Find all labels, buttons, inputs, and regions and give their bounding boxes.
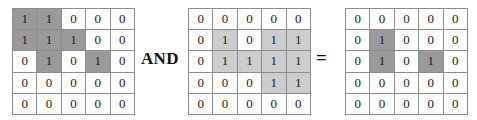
matrix-cell: 0 (443, 72, 467, 93)
equals-operator-label: = (316, 48, 327, 67)
matrix-cell: 0 (419, 72, 443, 93)
matrix-cell: 0 (189, 30, 213, 51)
matrix-cell: 1 (262, 51, 286, 72)
figure-canvas: 1100011100010100000000000 AND 0000001011… (0, 0, 477, 120)
matrix-body: 1100011100010100000000000 (13, 9, 135, 115)
matrix-cell: 0 (443, 30, 467, 51)
matrix-row: 01010 (13, 51, 135, 72)
matrix-cell: 1 (419, 51, 443, 72)
matrix-cell: 0 (189, 72, 213, 93)
matrix-cell: 0 (419, 30, 443, 51)
matrix-cell: 0 (394, 30, 418, 51)
matrix-cell: 0 (13, 93, 37, 114)
matrix-cell: 1 (37, 51, 61, 72)
matrix-cell: 0 (370, 93, 394, 114)
matrix-cell: 0 (346, 51, 370, 72)
matrix-cell: 0 (394, 51, 418, 72)
matrix-cell: 0 (110, 93, 134, 114)
matrix-cell: 0 (286, 93, 310, 114)
matrix-cell: 0 (110, 30, 134, 51)
matrix-cell: 0 (61, 72, 85, 93)
matrix-cell: 0 (213, 72, 237, 93)
matrix-cell: 0 (419, 93, 443, 114)
matrix-cell: 1 (37, 9, 61, 30)
matrix-body: 0000001000010100000000000 (346, 9, 468, 115)
matrix-cell: 0 (13, 51, 37, 72)
matrix-operand-a: 1100011100010100000000000 (12, 8, 135, 115)
matrix-cell: 0 (346, 30, 370, 51)
matrix-cell: 0 (286, 9, 310, 30)
matrix-cell: 1 (37, 30, 61, 51)
matrix-cell: 0 (110, 9, 134, 30)
matrix-row: 00000 (346, 72, 468, 93)
matrix-cell: 0 (86, 9, 110, 30)
matrix-cell: 0 (86, 93, 110, 114)
matrix-cell: 0 (213, 93, 237, 114)
matrix-cell: 0 (370, 9, 394, 30)
matrix-row: 00000 (189, 93, 311, 114)
matrix-cell: 0 (443, 9, 467, 30)
matrix-cell: 0 (189, 51, 213, 72)
matrix-cell: 0 (110, 72, 134, 93)
matrix-cell: 1 (370, 51, 394, 72)
matrix-cell: 0 (262, 9, 286, 30)
matrix-cell: 0 (346, 72, 370, 93)
matrix-cell: 1 (286, 30, 310, 51)
matrix-cell: 0 (86, 30, 110, 51)
matrix-row: 01011 (189, 30, 311, 51)
matrix-row: 11000 (13, 9, 135, 30)
matrix-row: 01111 (189, 51, 311, 72)
matrix-row: 00000 (13, 93, 135, 114)
matrix-cell: 0 (61, 93, 85, 114)
matrix-row: 01010 (346, 51, 468, 72)
matrix-body: 0000001011011110001100000 (189, 9, 311, 115)
matrix-cell: 1 (86, 51, 110, 72)
matrix-cell: 1 (286, 72, 310, 93)
matrix-cell: 1 (262, 72, 286, 93)
matrix-cell: 1 (286, 51, 310, 72)
matrix-result: 0000001000010100000000000 (345, 8, 468, 115)
matrix-cell: 0 (37, 93, 61, 114)
matrix-cell: 1 (13, 30, 37, 51)
matrix-cell: 0 (394, 93, 418, 114)
matrix-cell: 1 (262, 30, 286, 51)
matrix-cell: 0 (110, 51, 134, 72)
matrix-cell: 1 (61, 30, 85, 51)
matrix-cell: 1 (213, 30, 237, 51)
matrix-cell: 0 (370, 72, 394, 93)
matrix-cell: 0 (213, 9, 237, 30)
matrix-row: 00011 (189, 72, 311, 93)
matrix-cell: 0 (237, 9, 261, 30)
matrix-cell: 0 (189, 9, 213, 30)
matrix-cell: 0 (394, 9, 418, 30)
and-operator-label: AND (141, 50, 179, 67)
matrix-cell: 0 (346, 93, 370, 114)
matrix-cell: 0 (189, 93, 213, 114)
matrix-cell: 0 (61, 9, 85, 30)
matrix-cell: 0 (61, 51, 85, 72)
matrix-row: 00000 (346, 9, 468, 30)
matrix-cell: 0 (237, 72, 261, 93)
matrix-operand-b: 0000001011011110001100000 (188, 8, 311, 115)
matrix-cell: 0 (37, 72, 61, 93)
matrix-row: 11100 (13, 30, 135, 51)
matrix-cell: 0 (262, 93, 286, 114)
matrix-row: 00000 (346, 93, 468, 114)
matrix-cell: 0 (346, 9, 370, 30)
matrix-cell: 0 (443, 93, 467, 114)
matrix-cell: 0 (443, 51, 467, 72)
matrix-cell: 0 (13, 72, 37, 93)
matrix-cell: 0 (419, 9, 443, 30)
matrix-cell: 0 (237, 93, 261, 114)
matrix-cell: 1 (237, 51, 261, 72)
matrix-row: 01000 (346, 30, 468, 51)
matrix-cell: 0 (237, 30, 261, 51)
matrix-row: 00000 (189, 9, 311, 30)
matrix-cell: 0 (394, 72, 418, 93)
matrix-row: 00000 (13, 72, 135, 93)
matrix-cell: 1 (13, 9, 37, 30)
matrix-cell: 1 (213, 51, 237, 72)
matrix-cell: 1 (370, 30, 394, 51)
matrix-cell: 0 (86, 72, 110, 93)
